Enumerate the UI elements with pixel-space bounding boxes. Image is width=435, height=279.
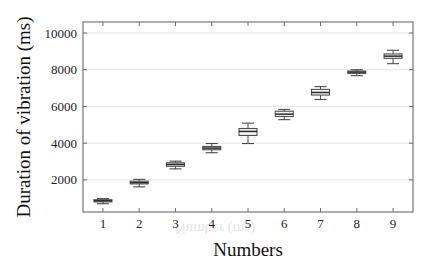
xtick-label-2: 2 [136,216,143,231]
xtick-label-5: 5 [245,216,252,231]
bleed-artifact-text: Number (ms) [175,220,255,237]
ytick-label-6000: 6000 [51,99,77,114]
ytick-label-4000: 4000 [51,136,77,151]
chart-canvas: Number (ms)20004000600080001000012345678… [0,0,435,279]
xtick-label-1: 1 [100,216,107,231]
boxplot-figure: Number (ms)20004000600080001000012345678… [0,0,435,279]
ytick-label-8000: 8000 [51,62,77,77]
x-axis-title: Numbers [213,239,283,260]
xtick-label-9: 9 [390,216,397,231]
ytick-label-2000: 2000 [51,172,77,187]
xtick-label-4: 4 [208,216,215,231]
y-axis-title: Duration of vibration (ms) [13,16,35,217]
xtick-label-8: 8 [354,216,361,231]
xtick-label-3: 3 [172,216,179,231]
xtick-label-7: 7 [317,216,324,231]
xtick-label-6: 6 [281,216,288,231]
ytick-label-10000: 10000 [45,26,78,41]
